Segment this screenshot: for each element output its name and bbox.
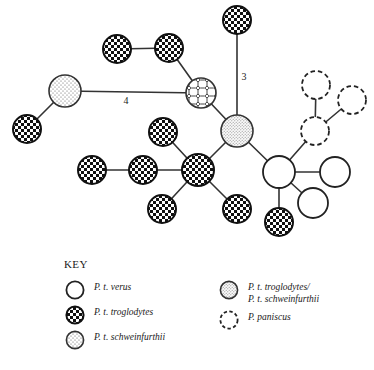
network-node-checkered[interactable] (13, 115, 41, 143)
network-node-checkered[interactable] (129, 156, 157, 184)
network-node-verus[interactable] (263, 156, 295, 188)
legend-title: KEY (64, 258, 88, 270)
edge-length-label: 4 (124, 95, 129, 106)
network-edge-labels: 34 (124, 71, 247, 106)
figure-canvas: 34 KEY P. t. verusP. t. troglodytesP. t.… (0, 0, 374, 370)
legend-swatch-mixed-icon (218, 279, 240, 301)
legend-swatch-paniscus-icon (218, 309, 240, 331)
edge-length-label: 3 (242, 71, 247, 82)
legend-item-label: P. t. troglodytes/ P. t. schweinfurthii (248, 278, 319, 305)
legend-column-left: P. t. verusP. t. troglodytesP. t. schwei… (64, 278, 165, 353)
network-node-paniscus[interactable] (338, 86, 366, 114)
network-node-paniscus[interactable] (301, 117, 329, 145)
network-node-segmented[interactable] (186, 78, 216, 108)
network-node-checkered[interactable] (78, 156, 106, 184)
network-node-checkered[interactable] (265, 208, 293, 236)
network-node-verus[interactable] (320, 157, 350, 187)
legend-swatch-checkered-icon (64, 304, 86, 326)
network-node-checkered[interactable] (223, 6, 251, 34)
network-node-checkered[interactable] (149, 118, 177, 146)
legend-item-label: P. paniscus (248, 308, 291, 324)
network-node-checkered[interactable] (103, 35, 131, 63)
legend-item-label: P. t. schweinfurthii (94, 328, 165, 344)
network-node-checkered[interactable] (223, 195, 251, 223)
legend-item: P. t. troglodytes/ P. t. schweinfurthii (218, 278, 319, 308)
network-node-schweinfurthii[interactable] (49, 75, 81, 107)
network-node-checkered[interactable] (148, 195, 176, 223)
network-node-checkered[interactable] (182, 154, 214, 186)
network-edge (65, 91, 201, 93)
legend: KEY P. t. verusP. t. troglodytesP. t. sc… (64, 258, 364, 366)
legend-swatch-verus-icon (64, 279, 86, 301)
network-node-mixed[interactable] (221, 115, 253, 147)
legend-item: P. paniscus (218, 308, 319, 333)
legend-item: P. t. schweinfurthii (64, 328, 165, 353)
legend-item-label: P. t. verus (94, 278, 131, 294)
legend-swatch-schweinfurthii-icon (64, 329, 86, 351)
legend-column-right: P. t. troglodytes/ P. t. schweinfurthiiP… (218, 278, 319, 333)
legend-item: P. t. verus (64, 278, 165, 303)
legend-item: P. t. troglodytes (64, 303, 165, 328)
legend-item-label: P. t. troglodytes (94, 303, 153, 319)
network-node-checkered[interactable] (155, 34, 183, 62)
network-nodes (13, 6, 366, 236)
network-node-verus[interactable] (298, 188, 328, 218)
network-node-paniscus[interactable] (302, 71, 330, 99)
haplotype-network: 34 (0, 0, 374, 260)
